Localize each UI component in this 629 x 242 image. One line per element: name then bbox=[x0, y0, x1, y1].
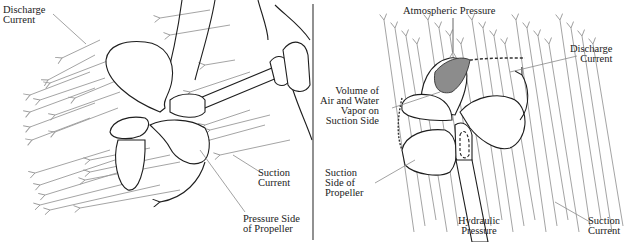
propeller-cavitation-diagram: Discharge Current Suction Current Pressu… bbox=[0, 0, 629, 242]
flow-arrow bbox=[45, 172, 120, 195]
flow-arrow bbox=[80, 190, 180, 208]
flow-arrow bbox=[30, 72, 90, 95]
flow-arrow bbox=[160, 10, 210, 18]
air-water-vapor-label: Volume of Air and Water Vapor on Suction… bbox=[320, 86, 379, 126]
flow-arrow bbox=[220, 140, 290, 155]
flow-arrow bbox=[30, 103, 95, 127]
hydraulic-pressure-label: Hydraulic Pressure bbox=[458, 216, 500, 236]
left-discharge-current-label: Discharge Current bbox=[3, 5, 45, 25]
right-discharge-current-label: Discharge Current bbox=[570, 44, 612, 64]
flow-arrow bbox=[210, 125, 265, 140]
left-hub bbox=[110, 117, 149, 138]
pressure-side-label: Pressure Side of Propeller bbox=[243, 214, 300, 234]
flow-arrow bbox=[55, 92, 120, 115]
flow-arrow bbox=[48, 55, 95, 80]
atmospheric-pressure-label: Atmospheric Pressure bbox=[403, 6, 495, 16]
right-suction-side-blade bbox=[402, 130, 456, 175]
flow-arrow bbox=[170, 25, 230, 35]
left-leaders bbox=[53, 14, 260, 212]
left-rotation-arrow bbox=[160, 162, 205, 202]
right-suction-current-label: Suction Current bbox=[588, 216, 620, 236]
left-blade-upper bbox=[106, 42, 173, 112]
left-shaft bbox=[170, 42, 310, 117]
flow-arrow bbox=[205, 60, 235, 65]
right-hub bbox=[455, 123, 472, 165]
flow-arrow bbox=[40, 160, 115, 185]
diagram-canvas bbox=[0, 0, 629, 242]
flow-arrow bbox=[35, 150, 110, 173]
flow-arrow bbox=[32, 118, 90, 140]
left-suction-current-label: Suction Current bbox=[258, 168, 290, 188]
left-blade-lower-back bbox=[116, 140, 145, 190]
flow-arrow bbox=[210, 115, 270, 130]
suction-side-label: Suction Side of Propeller bbox=[325, 168, 364, 198]
flow-arrow bbox=[205, 110, 250, 125]
